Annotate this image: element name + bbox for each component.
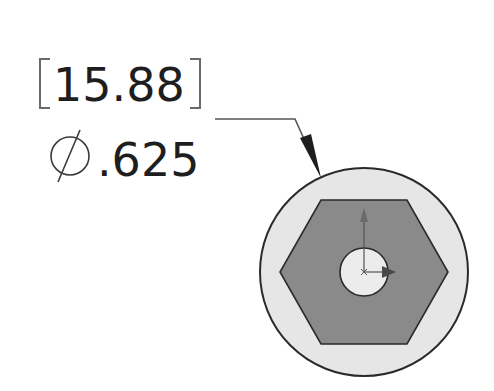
part-view	[260, 168, 468, 376]
dimension-annotation: 15.88 .625	[40, 58, 200, 187]
leader-line	[215, 119, 321, 178]
diameter-symbol-icon	[51, 130, 89, 182]
leader-arrow-icon	[300, 134, 321, 178]
imperial-dimension: .625	[97, 133, 199, 187]
technical-drawing: 15.88 .625	[0, 0, 494, 391]
metric-dimension: 15.88	[53, 58, 185, 112]
left-bracket	[40, 59, 50, 108]
right-bracket	[190, 59, 200, 108]
